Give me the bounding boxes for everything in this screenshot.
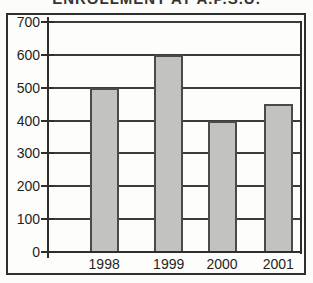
y-tick-100	[41, 218, 54, 220]
bar-2000	[208, 121, 237, 252]
bar-2001	[264, 104, 293, 252]
y-tick-0	[41, 251, 54, 253]
gridline-700	[48, 21, 301, 23]
y-tick-label-500: 500	[6, 79, 40, 97]
x-tick-label-2000: 2000	[200, 256, 244, 272]
y-tick-600	[41, 54, 54, 56]
bar-1999	[154, 55, 183, 252]
x-tick-label-2001: 2001	[256, 256, 300, 272]
y-tick-label-700: 700	[6, 13, 40, 31]
y-tick-300	[41, 152, 54, 154]
plot-area: 01002003004005006007001998199920002001	[0, 0, 313, 283]
bar-chart-figure: { "chart_data": { "type": "bar", "title"…	[0, 0, 313, 283]
x-axis-line	[41, 251, 301, 253]
y-tick-500	[41, 87, 54, 89]
x-tick-label-1999: 1999	[147, 256, 191, 272]
y-tick-label-100: 100	[6, 210, 40, 228]
x-tick-label-1998: 1998	[82, 256, 126, 272]
y-tick-200	[41, 185, 54, 187]
y-tick-label-0: 0	[6, 243, 40, 261]
y-tick-label-400: 400	[6, 112, 40, 130]
y-tick-700	[41, 21, 54, 23]
bar-1998	[90, 88, 119, 252]
y-tick-label-600: 600	[6, 46, 40, 64]
y-tick-400	[41, 120, 54, 122]
y-tick-label-200: 200	[6, 177, 40, 195]
plot-right-border	[300, 21, 302, 254]
y-tick-label-300: 300	[6, 144, 40, 162]
